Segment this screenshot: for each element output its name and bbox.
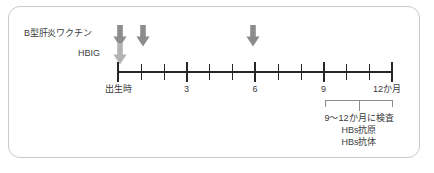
hepatitis-b-schedule-figure: B型肝炎ワクチン HBIG 出生時36912か月 9〜12か月に検査 HBs抗原… xyxy=(0,0,434,173)
axis-tick xyxy=(391,62,393,82)
axis-tick-label: 出生時 xyxy=(105,84,132,94)
followup-note-line: HBs抗体 xyxy=(341,136,376,148)
axis-tick xyxy=(369,64,370,80)
axis-tick xyxy=(117,62,119,82)
axis-tick xyxy=(164,64,165,80)
axis-tick xyxy=(278,64,279,80)
down-arrow-icon xyxy=(136,25,150,47)
axis-tick-label: 3 xyxy=(184,84,189,94)
axis-tick xyxy=(346,64,347,80)
axis-tick xyxy=(141,64,142,80)
bracket-leg-right xyxy=(392,100,393,107)
bracket-stem xyxy=(359,100,360,111)
vaccine-row-label: B型肝炎ワクチン xyxy=(24,28,91,39)
axis-tick-label: 9 xyxy=(321,84,326,94)
axis-tick xyxy=(323,62,325,82)
axis-tick xyxy=(186,62,188,82)
down-arrow-icon xyxy=(113,43,127,65)
axis-tick xyxy=(232,64,233,80)
hbig-row-label: HBIG xyxy=(78,48,100,59)
axis-tick xyxy=(301,64,302,80)
axis-tick xyxy=(209,64,210,80)
axis-tick-label: 6 xyxy=(252,84,257,94)
followup-note-line: HBs抗原 xyxy=(341,124,376,136)
down-arrow-icon xyxy=(246,25,260,47)
axis-tick-label: 12か月 xyxy=(373,84,401,94)
bracket-leg-left xyxy=(325,100,326,107)
followup-note-line: 9〜12か月に検査 xyxy=(324,112,393,124)
axis-tick xyxy=(254,62,256,82)
